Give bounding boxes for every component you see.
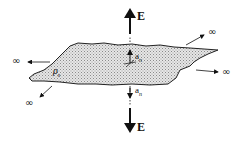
infinity-label-upper-right: ∞ (208, 27, 216, 37)
field-label-top: E (137, 10, 145, 22)
field-label-bottom: E (137, 121, 145, 133)
normal-label-top: an (135, 52, 142, 63)
infinity-label-left: ∞ (12, 56, 20, 66)
normal-label-bottom: an (135, 86, 142, 97)
charged-sheet-diagram: E E an an ρs ∞ ∞ ∞ ∞ (0, 0, 243, 142)
extent-arrow-upper-right (186, 35, 204, 45)
charge-density-label: ρs (53, 66, 60, 78)
diagram-canvas (0, 0, 243, 142)
extent-arrow-lower-left (40, 86, 52, 97)
infinity-label-right: ∞ (222, 67, 230, 77)
charged-sheet (29, 43, 218, 85)
infinity-label-lower-left: ∞ (25, 98, 33, 108)
extent-arrow-right (196, 70, 218, 72)
